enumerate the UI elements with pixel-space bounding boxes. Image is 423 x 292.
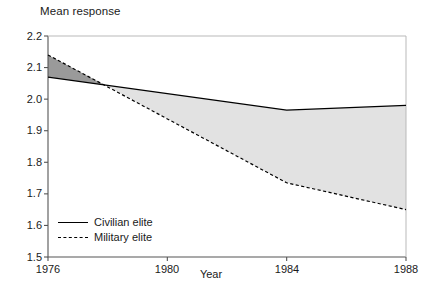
legend-item-military-elite: Military elite: [58, 229, 198, 244]
legend-label: Civilian elite: [94, 216, 153, 228]
chart-legend: Civilian elite Military elite: [58, 214, 198, 244]
legend-line-solid-icon: [58, 217, 88, 227]
legend-label: Military elite: [94, 231, 152, 243]
legend-item-civilian-elite: Civilian elite: [58, 214, 198, 229]
chart-container: Mean response 2.2 2.1 2.0 1.9 1.8 1.7 1.…: [0, 0, 423, 292]
area-fills: [48, 55, 406, 210]
legend-line-dashed-icon: [58, 232, 88, 242]
plot-area: [0, 0, 423, 292]
